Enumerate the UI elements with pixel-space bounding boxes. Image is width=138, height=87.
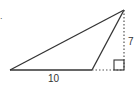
right-angle-marker (114, 60, 124, 70)
height-length-label: 7 (128, 37, 134, 47)
triangle-long-side (10, 10, 124, 70)
question-marker: . (0, 12, 3, 21)
triangle-figure (0, 0, 138, 87)
base-length-label: 10 (48, 74, 59, 84)
triangle-diagram: . 10 7 (0, 0, 138, 87)
